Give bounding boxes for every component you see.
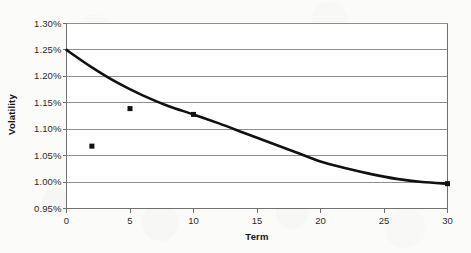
data-point-marker [89,144,94,149]
x-axis-tick-label: 25 [369,215,399,226]
y-axis-tick-label: 1.30% [18,18,62,29]
volatility-term-chart: 0.95%1.00%1.05%1.10%1.15%1.20%1.25%1.30%… [0,0,471,253]
x-axis-tick-label: 10 [179,215,209,226]
data-point-marker [128,106,133,111]
x-axis-tick-label: 0 [52,215,82,226]
data-point-marker [191,112,196,117]
y-axis-tick-label: 1.25% [18,44,62,55]
y-axis-tick-label: 1.20% [18,70,62,81]
y-axis-tick-label: 1.05% [18,150,62,161]
x-axis-tick-label: 15 [242,215,272,226]
y-axis-tick-label: 1.15% [18,97,62,108]
x-axis-title: Term [217,231,297,242]
data-point-marker [445,181,450,186]
x-axis-tick-label: 5 [115,215,145,226]
y-axis-title: Volatility [6,85,17,145]
x-axis-tick-label: 20 [306,215,336,226]
x-axis-tick-label: 30 [433,215,463,226]
plot-area-background [67,24,448,209]
y-axis-tick-label: 1.10% [18,123,62,134]
y-axis-tick-label: 0.95% [18,203,62,214]
y-axis-tick-label: 1.00% [18,176,62,187]
